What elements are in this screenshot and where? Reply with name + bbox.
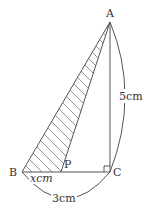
segment-ap (61, 22, 110, 172)
label-a: A (105, 7, 115, 20)
label-bc-length: 3cm (52, 192, 76, 205)
label-bp-length: xcm (30, 172, 53, 185)
label-b: B (9, 166, 17, 179)
label-c: C (113, 166, 121, 179)
shaded-triangle-abp (0, 0, 120, 211)
segment-ab (22, 22, 110, 172)
right-angle-marker (104, 166, 110, 172)
label-p: P (64, 158, 72, 171)
geometry-figure: A B C P 5cm 3cm xcm (0, 0, 149, 211)
label-ac-length: 5cm (119, 90, 143, 103)
